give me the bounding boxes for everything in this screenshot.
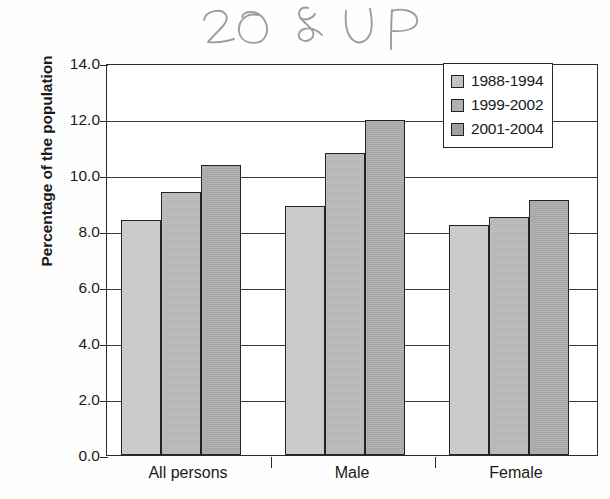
bar-group-bars: [271, 65, 435, 455]
x-tick-label: Female: [489, 464, 542, 482]
bar: [121, 220, 161, 455]
legend-item: 2001-2004: [451, 117, 543, 141]
y-tick-label: 0.0: [22, 448, 100, 464]
bar-group: [107, 65, 271, 455]
bar-group: [271, 65, 435, 455]
y-tick-label: 6.0: [22, 280, 100, 296]
y-axis-tick-labels: 14.012.010.08.06.04.02.00.0: [22, 56, 100, 456]
y-tick-label: 8.0: [22, 224, 100, 240]
legend-swatch-icon: [451, 123, 464, 136]
x-axis-tick-labels: All personsMaleFemale: [106, 464, 598, 494]
bar-group-bars: [107, 65, 271, 455]
y-tick-label: 12.0: [22, 112, 100, 128]
y-tick-label: 4.0: [22, 336, 100, 352]
legend-swatch-icon: [451, 99, 464, 112]
bar: [201, 165, 241, 455]
bar: [161, 192, 201, 455]
legend-swatch-icon: [451, 75, 464, 88]
y-tick-label: 10.0: [22, 168, 100, 184]
y-axis-tick-mark: [100, 457, 108, 458]
bar: [365, 120, 405, 455]
y-tick-label: 2.0: [22, 392, 100, 408]
chart-legend: 1988-19941999-20022001-2004: [443, 63, 553, 148]
x-tick-label: Male: [335, 464, 370, 482]
bar: [285, 206, 325, 455]
bar: [489, 217, 529, 455]
legend-label: 2001-2004: [471, 120, 543, 138]
bar: [449, 225, 489, 455]
legend-label: 1999-2002: [471, 96, 543, 114]
bar: [529, 200, 569, 455]
legend-item: 1999-2002: [451, 93, 543, 117]
legend-label: 1988-1994: [471, 72, 543, 90]
bar: [325, 153, 365, 455]
y-tick-label: 14.0: [22, 56, 100, 72]
legend-item: 1988-1994: [451, 69, 543, 93]
x-tick-label: All persons: [148, 464, 227, 482]
